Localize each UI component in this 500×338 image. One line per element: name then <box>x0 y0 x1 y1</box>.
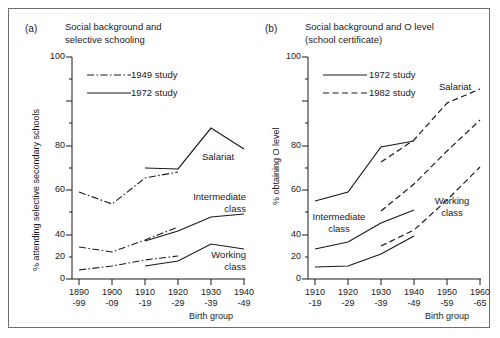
panel-b-ytick-80: 80 <box>271 140 301 150</box>
panel-a-x-axis-label: Birth group <box>189 311 233 321</box>
panel-a-ytick-40: 40 <box>35 229 65 239</box>
panel-a-annotation-salariat: Salariat <box>202 151 234 163</box>
series-a-intermediate-1949 <box>79 227 178 252</box>
panel-b-annotation-salariat: Salariat <box>439 81 471 93</box>
panel-b-ytick-60: 60 <box>271 184 301 194</box>
panel-b-ytick-100: 100 <box>271 51 301 61</box>
chart-panel-b: (b) Social background and O level (schoo… <box>249 9 491 327</box>
panel-b-annotation-intermediate: Intermediate class <box>303 211 375 234</box>
panel-a-x-ticks <box>79 279 244 285</box>
series-a-intermediate-1972 <box>145 214 244 241</box>
series-b-salariat-1982 <box>381 89 480 162</box>
panel-b-ytick-0: 0 <box>271 273 301 283</box>
panel-a-ytick-100: 100 <box>35 51 65 61</box>
panel-a-legend-label-1972: 1972 study <box>131 87 177 98</box>
panel-a-y-ticks <box>66 57 72 279</box>
panel-b-legend-label-1982: 1982 study <box>369 87 415 98</box>
panel-a-ytick-60: 60 <box>35 184 65 194</box>
series-b-working-1972 <box>315 236 414 267</box>
panel-b-ytick-20: 20 <box>271 251 301 261</box>
chart-panel-a: (a) Social background and selective scho… <box>9 9 257 327</box>
panel-a-ytick-20: 20 <box>35 251 65 261</box>
panel-a-legend-label-1949: 1949 study <box>131 69 177 80</box>
panel-a-ytick-0: 0 <box>35 273 65 283</box>
series-a-salariat-1949 <box>79 172 178 204</box>
panel-b-annotation-working: Working class <box>421 195 483 218</box>
panel-b-legend-label-1972: 1972 study <box>369 69 415 80</box>
panel-a-annotation-intermediate: Intermediate class <box>178 191 246 214</box>
figure-frame: (a) Social background and selective scho… <box>8 8 490 328</box>
series-a-salariat-1972 <box>145 128 244 169</box>
panel-a-ytick-80: 80 <box>35 140 65 150</box>
panel-b-y-ticks <box>302 57 308 279</box>
panel-b-ytick-40: 40 <box>271 229 301 239</box>
panel-a-annotation-working: Working class <box>189 249 246 272</box>
panel-b-x-ticks <box>315 279 480 285</box>
panel-b-xtick-5: 1960 -65 <box>458 287 500 309</box>
panel-b-x-axis-label: Birth group <box>425 311 469 321</box>
